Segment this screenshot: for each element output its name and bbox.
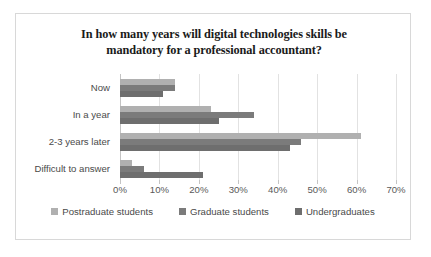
bar-row [120, 118, 396, 124]
bar-group [120, 74, 396, 101]
legend-swatch-icon [51, 208, 58, 215]
chart-figure: In how many years will digital technolog… [15, 13, 411, 240]
bar[interactable] [120, 91, 163, 97]
legend-label: Postraduate students [62, 206, 153, 217]
tick-label: 20% [189, 184, 208, 195]
chart-title-line-2: mandatory for a professional accountant? [34, 42, 394, 58]
legend-item[interactable]: Undergraduates [295, 206, 375, 217]
bar-row [120, 145, 396, 151]
tick-label: 30% [229, 184, 248, 195]
category-axis-labels: NowIn a year2-3 years laterDifficult to … [24, 74, 116, 182]
tick-label: 40% [268, 184, 287, 195]
bar-row [120, 172, 396, 178]
bar-group [120, 101, 396, 128]
chart-legend: Postraduate studentsGraduate studentsUnd… [16, 206, 410, 217]
bar[interactable] [120, 118, 219, 124]
tick-label: 60% [347, 184, 366, 195]
category-label: Difficult to answer [24, 155, 116, 182]
chart-title: In how many years will digital technolog… [34, 26, 394, 58]
legend-swatch-icon [295, 208, 302, 215]
value-axis-tick-labels: 0%10%20%30%40%50%60%70% [120, 184, 396, 198]
bar-group [120, 155, 396, 182]
tick-label: 10% [150, 184, 169, 195]
bar[interactable] [120, 145, 290, 151]
bar-row [120, 91, 396, 97]
legend-label: Undergraduates [306, 206, 375, 217]
tick-label: 70% [386, 184, 405, 195]
category-label: Now [24, 74, 116, 101]
legend-item[interactable]: Postraduate students [51, 206, 153, 217]
bar-group [120, 128, 396, 155]
tick-label: 0% [113, 184, 127, 195]
legend-label: Graduate students [190, 206, 269, 217]
bar-groups [120, 74, 396, 182]
tick-label: 50% [308, 184, 327, 195]
plot-area [120, 74, 396, 182]
legend-swatch-icon [179, 208, 186, 215]
chart-title-line-1: In how many years will digital technolog… [34, 26, 394, 42]
category-label: In a year [24, 101, 116, 128]
bar[interactable] [120, 172, 203, 178]
gridline [396, 74, 397, 182]
category-label: 2-3 years later [24, 128, 116, 155]
legend-item[interactable]: Graduate students [179, 206, 269, 217]
